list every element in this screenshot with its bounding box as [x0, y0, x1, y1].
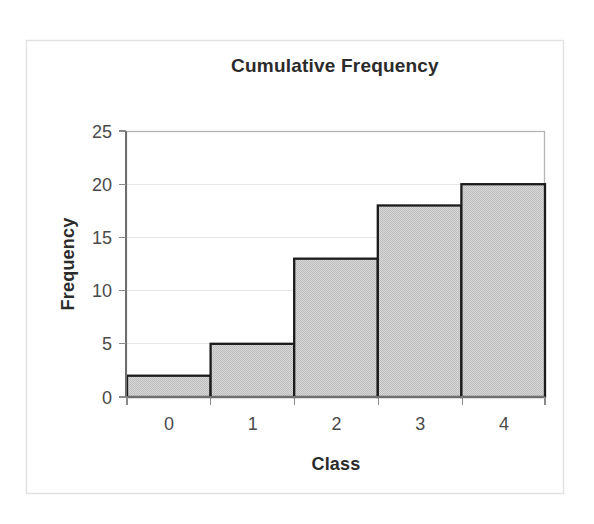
y-tick-label-5: 5 — [102, 334, 112, 354]
cumulative-frequency-chart: Cumulative Frequency 25 20 15 10 5 0 Fre… — [0, 0, 594, 524]
x-tick-label-3: 3 — [415, 414, 425, 434]
bar-class-3 — [378, 205, 462, 397]
y-tick-label-20: 20 — [92, 175, 112, 195]
y-axis-title: Frequency — [58, 218, 78, 311]
x-tick-label-1: 1 — [248, 414, 258, 434]
bar-class-0 — [127, 376, 211, 397]
bar-class-1 — [211, 344, 295, 397]
x-tick-label-0: 0 — [164, 414, 174, 434]
bar-class-2 — [294, 259, 378, 397]
chart-title: Cumulative Frequency — [231, 55, 439, 76]
bar-class-4 — [461, 184, 545, 397]
y-tick-label-15: 15 — [92, 228, 112, 248]
x-tick-label-2: 2 — [331, 414, 341, 434]
y-tick-label-0: 0 — [102, 388, 112, 408]
x-tick-label-4: 4 — [499, 414, 509, 434]
y-tick-label-25: 25 — [92, 122, 112, 142]
y-tick-label-10: 10 — [92, 281, 112, 301]
x-axis-title: Class — [311, 454, 360, 474]
